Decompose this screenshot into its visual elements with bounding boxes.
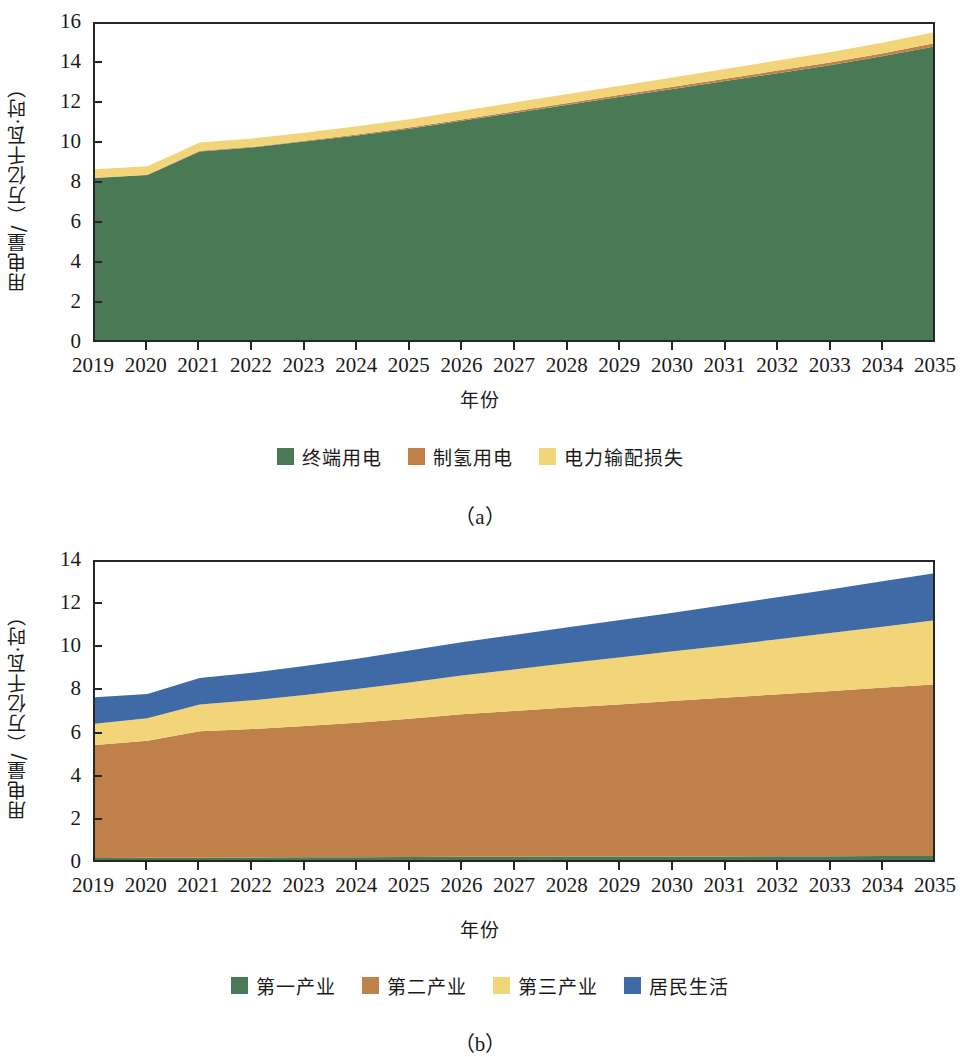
x-axis-tick-label: 2022	[223, 354, 279, 376]
y-axis-tick-label: 12	[51, 91, 81, 112]
x-axis-tick	[145, 342, 147, 350]
y-axis-tick-label: 6	[51, 211, 81, 232]
x-axis-tick-label: 2033	[802, 354, 858, 376]
x-axis-tick-label: 2033	[802, 874, 858, 896]
x-axis-tick	[460, 862, 462, 870]
x-axis-tick	[250, 342, 252, 350]
y-axis-tick	[93, 141, 102, 143]
y-axis-tick-label: 4	[51, 765, 81, 786]
legend-swatch-icon	[493, 977, 510, 994]
panel-b-y-axis-title: 用电量/（万亿千瓦·时）	[0, 558, 34, 868]
figure-a: 用电量/（万亿千瓦·时） 年份 终端用电制氢用电电力输配损失 （a） 02468…	[0, 0, 960, 520]
panel-b-plot-area	[93, 560, 935, 862]
x-axis-tick	[355, 862, 357, 870]
x-axis-tick-label: 2035	[907, 874, 960, 896]
y-axis-tick-label: 2	[51, 291, 81, 312]
figure-b: 用电量/（万亿千瓦·时） 年份 第一产业第二产业第三产业居民生活 （b） 024…	[0, 540, 960, 1048]
y-axis-tick	[93, 688, 102, 690]
x-axis-tick	[724, 342, 726, 350]
y-axis-tick-label: 2	[51, 808, 81, 829]
x-axis-tick-label: 2030	[644, 354, 700, 376]
y-axis-tick-label: 4	[51, 251, 81, 272]
y-axis-tick-label: 0	[51, 331, 81, 352]
x-axis-tick	[513, 862, 515, 870]
x-axis-tick	[618, 342, 620, 350]
y-axis-tick-label: 16	[51, 11, 81, 32]
panel-a-legend-item[interactable]: 制氢用电	[408, 443, 513, 470]
legend-label: 第三产业	[518, 972, 598, 999]
y-axis-tick	[93, 301, 102, 303]
x-axis-tick	[408, 342, 410, 350]
x-axis-tick	[881, 342, 883, 350]
x-axis-tick-label: 2031	[697, 354, 753, 376]
x-axis-tick-label: 2019	[65, 874, 121, 896]
x-axis-tick	[145, 862, 147, 870]
y-axis-tick	[93, 261, 102, 263]
x-axis-tick	[197, 862, 199, 870]
y-axis-tick-label: 12	[51, 592, 81, 613]
x-axis-tick-label: 2029	[591, 354, 647, 376]
panel-a-legend: 终端用电制氢用电电力输配损失	[0, 443, 960, 470]
x-axis-tick	[566, 862, 568, 870]
legend-label: 终端用电	[302, 443, 382, 470]
panel-a-y-axis-title: 用电量/（万亿千瓦·时）	[0, 30, 34, 340]
y-axis-tick-label: 8	[51, 171, 81, 192]
y-axis-tick	[93, 645, 102, 647]
panel-b-legend-item[interactable]: 第三产业	[493, 972, 598, 999]
area-series-终端用电	[95, 47, 933, 340]
y-axis-tick	[93, 602, 102, 604]
x-axis-tick-label: 2029	[591, 874, 647, 896]
x-axis-tick	[355, 342, 357, 350]
panel-b-caption: （b）	[0, 1027, 960, 1057]
panel-b-plot	[93, 560, 935, 862]
x-axis-tick-label: 2023	[276, 874, 332, 896]
x-axis-tick	[460, 342, 462, 350]
y-axis-tick	[93, 732, 102, 734]
x-axis-tick-label: 2020	[118, 354, 174, 376]
x-axis-tick	[671, 342, 673, 350]
panel-a-caption: （a）	[0, 500, 960, 530]
x-axis-tick-label: 2030	[644, 874, 700, 896]
legend-label: 电力输配损失	[564, 443, 684, 470]
y-axis-tick-label: 8	[51, 678, 81, 699]
y-axis-tick-label: 10	[51, 131, 81, 152]
panel-b-legend-item[interactable]: 第二产业	[362, 972, 467, 999]
x-axis-tick-label: 2034	[854, 874, 910, 896]
legend-label: 第二产业	[387, 972, 467, 999]
x-axis-tick-label: 2022	[223, 874, 279, 896]
legend-swatch-icon	[539, 448, 556, 465]
legend-label: 居民生活	[649, 972, 729, 999]
y-axis-tick	[93, 181, 102, 183]
legend-label: 制氢用电	[433, 443, 513, 470]
x-axis-tick-label: 2019	[65, 354, 121, 376]
x-axis-tick	[829, 342, 831, 350]
x-axis-tick-label: 2026	[433, 354, 489, 376]
legend-swatch-icon	[624, 977, 641, 994]
x-axis-tick-label: 2026	[433, 874, 489, 896]
y-axis-tick	[93, 775, 102, 777]
x-axis-tick-label: 2021	[170, 354, 226, 376]
x-axis-tick	[303, 342, 305, 350]
x-axis-tick-label: 2035	[907, 354, 960, 376]
legend-swatch-icon	[231, 977, 248, 994]
x-axis-tick-label: 2028	[539, 354, 595, 376]
panel-b-legend-item[interactable]: 第一产业	[231, 972, 336, 999]
y-axis-tick-label: 6	[51, 722, 81, 743]
x-axis-tick	[776, 862, 778, 870]
y-axis-tick-label: 14	[51, 549, 81, 570]
x-axis-tick-label: 2032	[749, 354, 805, 376]
x-axis-tick	[881, 862, 883, 870]
panel-a-legend-item[interactable]: 终端用电	[277, 443, 382, 470]
x-axis-tick	[671, 862, 673, 870]
x-axis-tick	[197, 342, 199, 350]
x-axis-tick	[408, 862, 410, 870]
x-axis-tick-label: 2025	[381, 874, 437, 896]
x-axis-tick-label: 2020	[118, 874, 174, 896]
panel-a-x-axis-title: 年份	[0, 385, 960, 412]
x-axis-tick-label: 2034	[854, 354, 910, 376]
x-axis-tick-label: 2025	[381, 354, 437, 376]
panel-a-legend-item[interactable]: 电力输配损失	[539, 443, 684, 470]
x-axis-tick	[250, 862, 252, 870]
y-axis-tick-label: 10	[51, 635, 81, 656]
panel-b-legend-item[interactable]: 居民生活	[624, 972, 729, 999]
